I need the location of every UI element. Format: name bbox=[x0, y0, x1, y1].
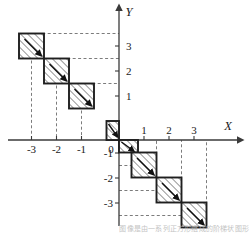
coordinate-plot: -3 -2 -1 0 1 2 3 1 2 3 -1 -2 -3 X Y bbox=[0, 0, 251, 234]
xtick-label-2: 2 bbox=[166, 124, 172, 136]
xtick-label-1: 1 bbox=[141, 124, 147, 136]
xtick-label--2: -2 bbox=[52, 143, 61, 155]
square-3 bbox=[69, 84, 94, 109]
square-1 bbox=[19, 34, 44, 59]
ytick-label--2: -2 bbox=[104, 172, 113, 184]
square-4 bbox=[107, 121, 120, 140]
ytick-label--3: -3 bbox=[104, 197, 114, 209]
square-8 bbox=[182, 203, 207, 228]
ytick-label-3: 3 bbox=[126, 40, 132, 52]
ytick-label-2: 2 bbox=[126, 65, 132, 77]
ytick-label-1: 1 bbox=[126, 90, 132, 102]
square-5 bbox=[119, 140, 138, 153]
square-7 bbox=[157, 178, 182, 203]
xtick-label--3: -3 bbox=[27, 143, 37, 155]
x-axis-label: X bbox=[223, 119, 233, 133]
square-2 bbox=[44, 59, 69, 84]
figure-caption: 图像是由一系列正方形组成的阶梯状图形 bbox=[0, 225, 251, 234]
figure-root: -3 -2 -1 0 1 2 3 1 2 3 -1 -2 -3 X Y 图像是由… bbox=[0, 0, 251, 234]
xtick-label--1: -1 bbox=[77, 143, 86, 155]
ytick-label--1: -1 bbox=[104, 147, 113, 159]
xtick-label-3: 3 bbox=[191, 124, 197, 136]
square-6 bbox=[132, 153, 157, 178]
